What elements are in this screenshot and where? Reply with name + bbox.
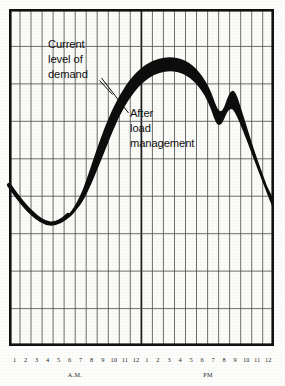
x-tick-pm-7: 7 [211, 356, 215, 363]
x-tick-am-10: 10 [111, 356, 117, 363]
x-tick-pm-6: 6 [200, 356, 203, 363]
annotation-current-line-3: demand [48, 68, 88, 80]
x-tick-am-2: 2 [24, 356, 27, 363]
x-tick-am-7: 7 [79, 356, 83, 363]
x-tick-am-5: 5 [57, 356, 60, 363]
demand-curve-figure: Current level of demand After load manag… [0, 0, 285, 386]
x-tick-pm-11: 11 [254, 356, 260, 363]
x-tick-am-3: 3 [35, 356, 38, 363]
x-tick-pm-1: 1 [145, 356, 148, 363]
annotation-current-line-1: Current [48, 38, 86, 50]
annotation-current-line-2: level of [48, 53, 84, 65]
x-tick-pm-12: 12 [265, 356, 271, 363]
x-axis-pm-label: PM [203, 371, 213, 378]
x-axis-am-label: A.M. [68, 371, 83, 378]
annotation-after-line-1: After [130, 107, 154, 119]
x-tick-pm-10: 10 [243, 356, 249, 363]
x-tick-am-8: 8 [90, 356, 93, 363]
annotation-current-level-of-demand: Current level of demand [48, 38, 88, 80]
x-tick-pm-3: 3 [167, 356, 170, 363]
annotation-after-line-2: load [130, 122, 151, 134]
x-tick-pm-9: 9 [234, 356, 237, 363]
x-tick-pm-8: 8 [222, 356, 225, 363]
x-tick-am-9: 9 [101, 356, 104, 363]
x-axis-tick-labels: 1 2 3 4 5 6 7 8 9 10 11 12 1 2 3 4 5 6 7… [13, 356, 272, 363]
x-tick-am-6: 6 [68, 356, 71, 363]
annotation-after-line-3: management [130, 137, 195, 149]
x-tick-am-11: 11 [122, 356, 128, 363]
demand-curve-chart: Current level of demand After load manag… [0, 0, 285, 386]
x-tick-pm-4: 4 [178, 356, 182, 363]
x-tick-am-1: 1 [13, 356, 16, 363]
x-tick-pm-5: 5 [189, 356, 192, 363]
x-tick-am-12: 12 [133, 356, 139, 363]
x-tick-pm-2: 2 [156, 356, 159, 363]
x-tick-am-4: 4 [46, 356, 50, 363]
